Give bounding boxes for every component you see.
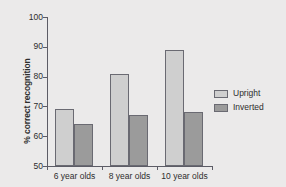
y-tick: [43, 106, 47, 107]
bar-inverted-10-year-olds: [184, 112, 203, 166]
x-tick: [102, 166, 103, 170]
x-tick: [157, 166, 158, 170]
y-tick: [43, 136, 47, 137]
x-axis-line: [47, 166, 212, 167]
y-tick-label: 70: [3, 102, 43, 111]
x-tick-label: 10 year olds: [157, 172, 212, 181]
x-tick: [47, 166, 48, 170]
y-tick: [43, 47, 47, 48]
y-tick-label: 50: [3, 162, 43, 171]
legend-item-upright: Upright: [214, 88, 264, 99]
bar-upright-8-year-olds: [110, 74, 129, 166]
y-tick-label: 100: [3, 13, 43, 22]
x-tick-label: 8 year olds: [102, 172, 157, 181]
legend: Upright Inverted: [214, 88, 264, 116]
bar-upright-6-year-olds: [55, 109, 74, 166]
y-tick: [43, 17, 47, 18]
bar-inverted-6-year-olds: [74, 124, 93, 166]
y-tick-label: 80: [3, 72, 43, 81]
y-tick: [43, 77, 47, 78]
x-tick-label: 6 year olds: [47, 172, 102, 181]
y-tick-label: 60: [3, 132, 43, 141]
bar-chart: % correct recognition 5060708090100 6 ye…: [0, 0, 286, 187]
bar-inverted-8-year-olds: [129, 115, 148, 166]
legend-label-inverted: Inverted: [233, 103, 264, 112]
y-tick-label: 90: [3, 42, 43, 51]
legend-swatch-inverted: [214, 104, 228, 112]
legend-swatch-upright: [214, 90, 228, 98]
bar-upright-10-year-olds: [165, 50, 184, 166]
x-tick: [212, 166, 213, 170]
y-axis-line: [47, 17, 48, 167]
legend-item-inverted: Inverted: [214, 102, 264, 113]
legend-label-upright: Upright: [233, 89, 260, 98]
